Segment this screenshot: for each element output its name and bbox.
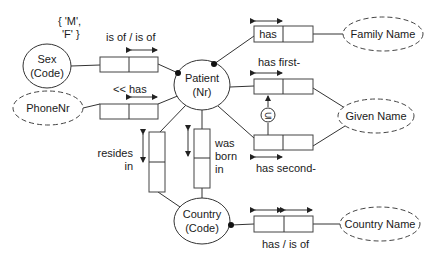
mandatory-dot-icon	[211, 61, 217, 67]
value-countryname[interactable]: Country Name	[340, 207, 420, 241]
subset-constraint[interactable]: ⊆	[261, 96, 275, 135]
value-givenname[interactable]: Given Name	[338, 99, 414, 133]
entity-patient[interactable]: Patient (Nr)	[174, 60, 230, 110]
svg-text:Country: Country	[183, 208, 222, 220]
fact-first[interactable]: has first-	[254, 56, 313, 94]
orm-diagram: Sex (Code) { 'M', 'F' } is of / is of Ph…	[0, 0, 427, 261]
svg-text:born: born	[215, 150, 237, 162]
fact-sex-reading: is of / is of	[106, 31, 156, 43]
mandatory-dot-icon	[228, 222, 234, 228]
value-phonenr[interactable]: PhoneNr	[13, 91, 83, 125]
fact-phone[interactable]: << has	[100, 83, 158, 119]
svg-text:PhoneNr: PhoneNr	[26, 102, 70, 114]
fact-born[interactable]: was born in	[188, 129, 237, 188]
svg-text:⊆: ⊆	[264, 110, 272, 121]
fact-second[interactable]: has second-	[254, 135, 316, 174]
value-constraint-line2: 'F' }	[62, 28, 80, 40]
mandatory-dot-icon	[175, 70, 181, 76]
fact-resides[interactable]: resides in	[98, 132, 165, 192]
svg-text:was: was	[214, 137, 235, 149]
entity-sex[interactable]: Sex (Code)	[23, 44, 71, 88]
fact-second-reading: has second-	[256, 162, 316, 174]
value-familyname[interactable]: Family Name	[343, 17, 423, 51]
fact-sex[interactable]: is of / is of	[100, 31, 158, 72]
svg-text:Patient: Patient	[185, 72, 219, 84]
value-constraint-line1: { 'M',	[58, 15, 81, 27]
fact-phone-reading: << has	[113, 83, 147, 95]
svg-text:Family Name: Family Name	[351, 28, 416, 40]
fact-family-reading: has	[259, 28, 277, 40]
entity-country[interactable]: Country (Code)	[174, 198, 230, 244]
svg-text:(Code): (Code)	[185, 222, 219, 234]
svg-text:(Nr): (Nr)	[193, 86, 212, 98]
entity-sex-ref: (Code)	[30, 67, 64, 79]
svg-text:Country Name: Country Name	[345, 218, 416, 230]
svg-text:Given Name: Given Name	[345, 110, 406, 122]
entity-sex-name: Sex	[38, 53, 57, 65]
fact-first-reading: has first-	[258, 56, 301, 68]
svg-text:in: in	[124, 160, 133, 172]
fact-family[interactable]: has	[254, 21, 313, 42]
fact-countryname-reading: has / is of	[262, 238, 310, 250]
svg-text:in: in	[215, 163, 224, 175]
fact-countryname[interactable]: has / is of	[254, 210, 313, 250]
svg-text:resides: resides	[98, 147, 134, 159]
